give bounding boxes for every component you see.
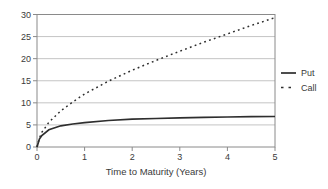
call-legend-label: Call xyxy=(301,83,317,93)
y-tick-label: 0 xyxy=(26,142,31,152)
gridlines xyxy=(37,37,275,125)
x-axis-title: Time to Maturity (Years) xyxy=(106,166,207,177)
x-tick-label: 3 xyxy=(177,152,182,162)
put-legend-label: Put xyxy=(301,68,315,78)
put-series-line xyxy=(37,117,275,148)
y-tick-label: 25 xyxy=(21,32,31,42)
x-axis-ticks xyxy=(37,147,275,151)
y-tick-label: 30 xyxy=(21,10,31,20)
option-value-chart: 051015202530 012345 Time to Maturity (Ye… xyxy=(0,0,328,189)
y-tick-label: 5 xyxy=(26,120,31,130)
legend: Put Call xyxy=(281,68,317,93)
y-tick-label: 15 xyxy=(21,76,31,86)
x-tick-label: 1 xyxy=(82,152,87,162)
y-tick-label: 10 xyxy=(21,98,31,108)
x-tick-label: 2 xyxy=(130,152,135,162)
x-axis-labels: 012345 xyxy=(34,152,277,162)
x-tick-label: 0 xyxy=(34,152,39,162)
chart-canvas: 051015202530 012345 Time to Maturity (Ye… xyxy=(0,0,328,189)
y-axis-labels: 051015202530 xyxy=(21,10,31,153)
x-tick-label: 5 xyxy=(272,152,277,162)
y-axis-ticks xyxy=(33,15,37,148)
y-tick-label: 20 xyxy=(21,54,31,64)
x-tick-label: 4 xyxy=(225,152,230,162)
